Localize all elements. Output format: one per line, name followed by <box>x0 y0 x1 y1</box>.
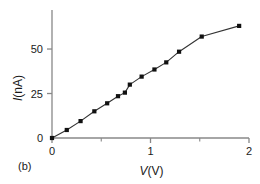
data-series-layer <box>50 24 241 140</box>
data-point-marker <box>152 67 156 71</box>
data-point-marker <box>200 34 204 38</box>
y-axis-title: I(nA) <box>11 75 25 101</box>
data-point-marker <box>123 91 127 95</box>
chart-figure: 01202550V(V)I(nA) (b) <box>0 0 260 184</box>
x-tick-label: 0 <box>49 145 55 157</box>
data-point-marker <box>237 24 241 28</box>
axis-labels-layer: 01202550V(V)I(nA) <box>11 43 252 178</box>
data-point-marker <box>116 94 120 98</box>
data-point-marker <box>140 75 144 79</box>
x-tick-label: 1 <box>147 145 153 157</box>
data-point-marker <box>164 60 168 64</box>
x-tick-label: 2 <box>246 145 252 157</box>
data-point-marker <box>50 136 54 140</box>
panel-label: (b) <box>18 160 31 172</box>
data-point-marker <box>105 101 109 105</box>
data-point-marker <box>92 109 96 113</box>
y-tick-label: 50 <box>31 43 43 55</box>
iv-curve-plot: 01202550V(V)I(nA) <box>0 0 260 184</box>
x-axis-title: V(V) <box>139 164 163 178</box>
data-point-marker <box>177 50 181 54</box>
data-point-marker <box>78 119 82 123</box>
y-tick-label: 0 <box>37 132 43 144</box>
y-tick-label: 25 <box>31 88 43 100</box>
data-point-marker <box>65 128 69 132</box>
data-point-marker <box>128 83 132 87</box>
